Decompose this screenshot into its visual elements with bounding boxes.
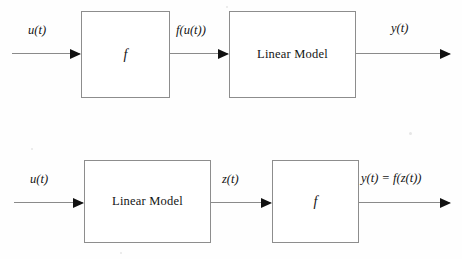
- signal-label-row2-intermediate: z(t): [222, 173, 239, 186]
- signal-label-row1-intermediate: f(u(t)): [176, 24, 206, 37]
- scan-speck: [409, 132, 412, 135]
- arrow-row1-output: [356, 53, 450, 54]
- arrow-row2-intermediate: [211, 202, 271, 203]
- block-row1-nonlinearity: f: [81, 11, 170, 98]
- arrow-row1-intermediate: [170, 53, 228, 54]
- signal-label-row2-output: y(t) = f(z(t)): [361, 172, 422, 185]
- arrow-row1-input: [12, 53, 80, 54]
- block-row2-nonlinearity: f: [272, 160, 359, 243]
- scan-speck: [226, 6, 228, 8]
- scan-speck: [31, 148, 33, 150]
- arrow-row2-output: [359, 202, 450, 203]
- signal-label-row1-input: u(t): [28, 24, 46, 37]
- block-row2-linear-model-label: Linear Model: [112, 195, 183, 208]
- block-row2-linear-model: Linear Model: [84, 160, 211, 243]
- block-row2-nonlinearity-label: f: [314, 195, 318, 209]
- block-diagram-figure: u(t) f f(u(t)) Linear Model y(t) u(t) Li…: [0, 0, 462, 259]
- arrow-row2-input: [14, 202, 83, 203]
- signal-label-row2-input: u(t): [30, 173, 48, 186]
- block-row1-linear-model-label: Linear Model: [257, 48, 328, 61]
- block-row1-linear-model: Linear Model: [229, 11, 356, 98]
- scan-speck: [120, 252, 122, 254]
- signal-label-row1-output: y(t): [391, 22, 408, 35]
- block-row1-nonlinearity-label: f: [124, 48, 128, 62]
